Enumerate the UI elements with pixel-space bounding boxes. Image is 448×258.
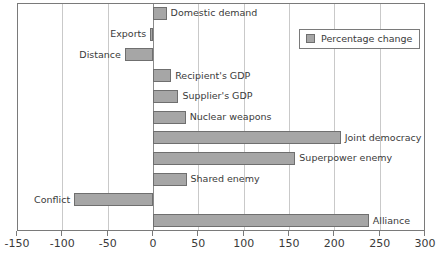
bar-label: Distance <box>79 50 121 60</box>
bar <box>153 69 171 82</box>
bar-row: Nuclear weapons <box>17 111 425 124</box>
bar <box>153 214 369 227</box>
bar-row: Conflict <box>17 193 425 206</box>
bar-row: Supplier's GDP <box>17 90 425 103</box>
bar <box>125 48 153 61</box>
legend-swatch-icon <box>306 34 315 43</box>
x-tick <box>424 231 425 236</box>
x-tick-label: 0 <box>150 238 157 249</box>
bar <box>150 28 153 41</box>
bar-label: Superpower enemy <box>299 154 392 164</box>
bar <box>153 90 178 103</box>
bar <box>153 152 295 165</box>
x-tick-label: 150 <box>279 238 300 249</box>
bar-row: Alliance <box>17 214 425 227</box>
bar-label: Domestic demand <box>171 9 258 19</box>
bar-chart: Domestic demandExportsDistanceRecipient'… <box>0 0 448 258</box>
bar-label: Recipient's GDP <box>175 71 250 81</box>
bar-row: Superpower enemy <box>17 152 425 165</box>
x-tick-label: -100 <box>50 238 75 249</box>
bar <box>153 173 187 186</box>
bar-label: Alliance <box>373 216 410 226</box>
x-tick <box>152 231 153 236</box>
x-tick <box>243 231 244 236</box>
x-tick <box>333 231 334 236</box>
bar-label: Conflict <box>34 195 70 205</box>
bar-row: Recipient's GDP <box>17 69 425 82</box>
bar <box>153 7 167 20</box>
x-tick-label: 250 <box>369 238 390 249</box>
legend: Percentage change <box>299 29 420 49</box>
x-tick-label: 300 <box>415 238 436 249</box>
bar-label: Shared enemy <box>191 174 260 184</box>
x-tick-label: 100 <box>233 238 254 249</box>
bar-row: Shared enemy <box>17 173 425 186</box>
x-tick <box>107 231 108 236</box>
x-tick <box>16 231 17 236</box>
bar <box>153 111 186 124</box>
x-tick <box>379 231 380 236</box>
x-tick-label: -50 <box>99 238 117 249</box>
x-tick <box>197 231 198 236</box>
bar <box>153 131 341 144</box>
x-tick-label: 50 <box>191 238 205 249</box>
bar-label: Joint democracy <box>345 133 422 143</box>
bar <box>74 193 153 206</box>
bar-label: Nuclear weapons <box>190 112 272 122</box>
x-tick-label: -150 <box>5 238 30 249</box>
bar-label: Exports <box>110 29 146 39</box>
bar-row: Joint democracy <box>17 131 425 144</box>
bar-label: Supplier's GDP <box>182 92 252 102</box>
bar-row: Distance <box>17 48 425 61</box>
x-tick <box>288 231 289 236</box>
x-tick-label: 200 <box>324 238 345 249</box>
bar-row: Domestic demand <box>17 7 425 20</box>
x-tick <box>61 231 62 236</box>
legend-label: Percentage change <box>321 34 412 44</box>
